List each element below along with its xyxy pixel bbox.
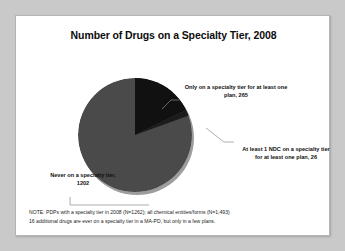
- footnote-line-1: NOTE: PDPs with a specialty tier in 2008…: [29, 208, 319, 217]
- slide-frame: Number of Drugs on a Specialty Tier, 200…: [15, 15, 330, 236]
- chart-title: Number of Drugs on a Specialty Tier, 200…: [16, 29, 331, 41]
- leader-line-ndc: [206, 128, 234, 142]
- callout-never: Never on a specialty tier, 1202: [44, 172, 122, 188]
- footnote: NOTE: PDPs with a specialty tier in 2008…: [29, 208, 319, 226]
- callout-only-specialty: Only on a specialty tier for at least on…: [184, 84, 288, 100]
- footnote-line-2: 16 additional drugs are ever on a specia…: [29, 217, 319, 226]
- leader-line-never: [70, 197, 149, 205]
- callout-at-least-1-ndc: At least 1 NDC on a specialty tier for a…: [238, 146, 334, 162]
